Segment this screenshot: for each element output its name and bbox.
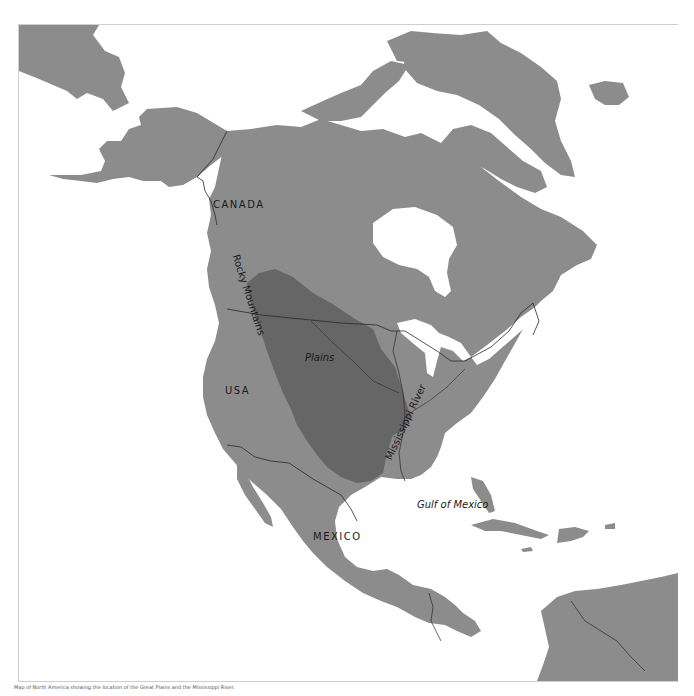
land-south-america (537, 573, 678, 681)
map-caption: Map of North America showing the locatio… (14, 684, 235, 690)
land-siberia (19, 25, 129, 111)
label-usa: USA (225, 385, 250, 396)
map-frame: CANADA USA MEXICO Plains Gulf of Mexico … (18, 24, 678, 682)
land-puerto-rico (605, 523, 615, 529)
north-america-map (19, 25, 678, 681)
land-cuba (471, 519, 549, 539)
land-arctic-islands (301, 61, 409, 121)
label-plains: Plains (305, 352, 334, 363)
land-hispaniola (557, 527, 589, 543)
label-gulf-of-mexico: Gulf of Mexico (417, 499, 488, 510)
land-alaska (49, 107, 229, 187)
land-jamaica (521, 547, 533, 552)
label-mexico: MEXICO (313, 531, 362, 542)
land-iceland (589, 81, 629, 105)
label-canada: CANADA (213, 199, 265, 210)
